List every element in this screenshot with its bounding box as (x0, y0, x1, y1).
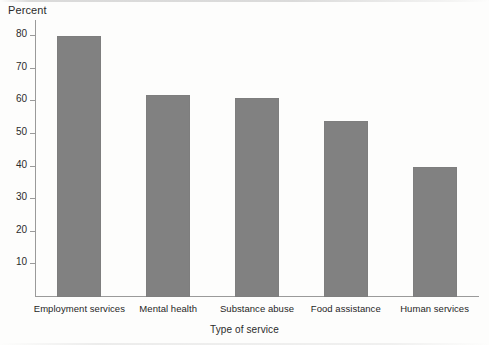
x-axis-tick-label: Employment services (34, 303, 125, 314)
bar-slot (35, 20, 124, 297)
bar-group (35, 20, 479, 297)
bar (146, 95, 190, 297)
y-axis-title: Percent (8, 4, 47, 16)
x-axis-tick-label: Food assistance (311, 303, 381, 314)
scan-edge-top (0, 0, 489, 2)
bar (235, 98, 279, 297)
bar-slot (301, 20, 390, 297)
y-axis-tick-label: 70 (16, 61, 27, 72)
y-axis-tick-label: 10 (16, 256, 27, 267)
y-axis-tick-label: 40 (16, 159, 27, 170)
bar-slot (213, 20, 302, 297)
bar (324, 121, 368, 297)
bar (413, 167, 457, 297)
bar-slot (124, 20, 213, 297)
y-axis-tick-label: 30 (16, 191, 27, 202)
y-axis-tick-label: 20 (16, 224, 27, 235)
x-axis-tick-label: Human services (400, 303, 469, 314)
plot-area: 1020304050607080 Employment servicesMent… (35, 20, 479, 297)
bar (57, 36, 101, 297)
bar-slot (390, 20, 479, 297)
y-axis-tick-label: 50 (16, 126, 27, 137)
chart-page: Percent 1020304050607080 Employment serv… (0, 0, 489, 345)
x-axis-tick-label: Mental health (139, 303, 197, 314)
y-axis-tick-label: 80 (16, 28, 27, 39)
x-axis-title: Type of service (0, 324, 489, 335)
x-axis-tick-label: Substance abuse (220, 303, 294, 314)
y-axis-tick-label: 60 (16, 93, 27, 104)
